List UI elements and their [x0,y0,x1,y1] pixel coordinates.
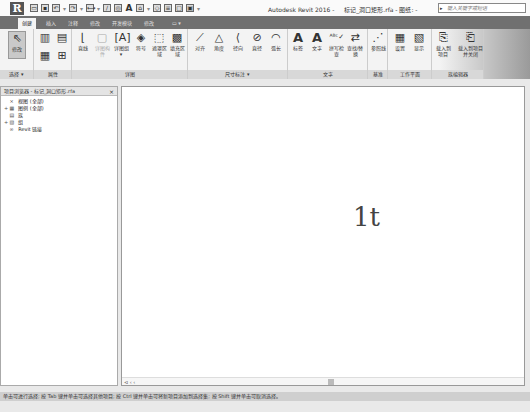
tab-insert[interactable]: 插入 [42,18,60,29]
ribbon-tab-bar: 创建 插入 注释 修改 开发模块 修改 ▭ ▾ [0,16,530,29]
show-workplane-icon: ▧ [413,31,426,44]
set-workplane-icon: ▦ [394,31,407,44]
save-icon[interactable]: ▪ [41,4,49,12]
aligned-dim-icon: ⟋ [194,31,207,44]
load-close-icon: ⎗ [464,31,477,44]
load-into-project-and-close-button[interactable]: ⎗ 载入到项目并关闭 [456,31,484,57]
find-replace-icon: ⇄ [349,31,362,44]
family-types-button[interactable]: ▥ [36,31,54,44]
panel-label[interactable]: 文字 [288,70,367,79]
legends-icon: ▦ [10,105,17,112]
reference-line-button[interactable]: ⋰ 参照线 [369,31,387,51]
expander-icon[interactable]: + [4,119,8,126]
ribbon-display-toggle[interactable]: ▭ ▾ [168,18,185,29]
family-types-icon: ▥ [39,31,52,44]
properties-button[interactable]: ▤ [53,31,71,44]
tag-icon[interactable]: ◎ [114,4,122,12]
panel-family-editor: ⎘ 载入到项目 ⎗ 载入到项目并关闭 族编辑器 [432,29,484,79]
3d-view-icon[interactable]: ⌂ [136,4,144,12]
load-into-project-button[interactable]: ⎘ 载入到项目 [434,31,452,57]
tree-node-families[interactable]: ▤ 族 [4,112,117,119]
label-button[interactable]: A 标签 [289,31,307,51]
tree-node-revit-links[interactable]: ∞ Revit 链接 [4,126,117,133]
aligned-dimension-button[interactable]: ⟋ 对齐 [191,31,209,51]
radial-dimension-button[interactable]: ⟨ 径向 [229,31,247,51]
masking-region-icon: ⬚ [153,31,166,44]
arc-length-button[interactable]: ◠ 弧长 [267,31,285,51]
family-category-button[interactable]: ⊞ [53,49,71,62]
panel-label: 属性 [34,70,71,79]
quick-access-toolbar: ▭ ▪ ↶ ▾ ↷ ▾ ⟷ ▾ / ◎ A ⌂ ▾ ◇ ≡ ▢ ▣ ▾ [30,3,200,13]
undo-icon[interactable]: ↶ [52,4,60,12]
find-replace-button[interactable]: ⇄ 查找/替换 [346,31,364,57]
type-properties-button[interactable]: ▦ [36,49,54,62]
panel-work-plane: ▦ 设置 ▧ 显示 工作平面 [388,29,432,79]
type-properties-icon: ▦ [39,49,52,62]
load-into-project-icon: ⎘ [437,31,450,44]
open-icon[interactable]: ▭ [30,4,38,12]
tree-node-legends[interactable]: + ▦ 图例 (全部) [4,105,117,112]
redo-icon[interactable]: ↷ [69,4,77,12]
tab-annotate[interactable]: 注释 [64,18,82,29]
symbol-icon: ◈ [135,31,148,44]
scrollbar-thumb[interactable] [328,379,334,385]
drawing-canvas[interactable]: 1t ⊲ ‹ ‹ [121,86,525,386]
arc-length-icon: ◠ [270,31,283,44]
family-category-icon: ⊞ [56,49,69,62]
radial-dim-icon: ⟨ [232,31,245,44]
panel-select: ⇖ 修改 选择 ▾ [0,29,34,79]
panel-dimension: ⟋ 对齐 △ 角度 ⟨ 径向 ⊘ 直径 ◠ 弧长 尺寸标注 ▾ [188,29,288,79]
expand-arrow-icon[interactable]: ▸ [440,5,443,11]
masking-region-button[interactable]: ⬚ 遮罩区域 [150,31,168,57]
angular-dim-icon: △ [213,31,226,44]
project-browser-header: 项目浏览器 - 标记_洞口矩形.rfa × [1,87,117,96]
detail-group-button[interactable]: [A] 详图组 ▾ [112,31,130,57]
thin-lines-icon[interactable]: ≡ [164,4,172,12]
section-icon[interactable]: ◇ [153,4,161,12]
tree-node-groups[interactable]: + ▧ 组 [4,119,117,126]
diameter-dimension-button[interactable]: ⊘ 直径 [248,31,266,51]
tree-node-views[interactable]: ⨯ 视图 (全部) [4,98,117,105]
status-bar: 单击可进行选择; 按 Tab 键并单击可选择其他项目; 按 Ctrl 键并单击可… [0,392,530,401]
tab-create[interactable]: 创建 [18,18,36,29]
spell-check-button[interactable]: ᴬᴮᶜ✓ 拼写检查 [327,31,345,57]
groups-icon: ▧ [10,119,17,126]
symbol-button[interactable]: ◈ 符号 [132,31,150,51]
panel-label: 详图 [72,70,187,79]
arrow-cursor-icon: ⇖ [11,32,24,45]
show-work-plane-button[interactable]: ▧ 显示 [410,31,428,51]
application-menu-button[interactable]: R [10,2,24,15]
filled-region-button[interactable]: ▩ 填充区域 [168,31,186,57]
modify-button[interactable]: ⇖ 修改 [8,31,26,59]
aligned-dimension-icon[interactable]: / [103,4,111,12]
panel-label: 族编辑器 [432,70,483,79]
angular-dimension-button[interactable]: △ 角度 [210,31,228,51]
view-control-bar[interactable]: ⊲ ‹ ‹ [122,377,524,385]
search-input[interactable] [447,4,525,12]
tab-modify-context[interactable]: 修改 [140,18,158,29]
text-icon[interactable]: A [125,4,133,12]
close-icon[interactable]: × [109,87,114,96]
infocenter-search[interactable]: ▸ [438,3,526,13]
project-browser-title: 项目浏览器 - 标记_洞口矩形.rfa [4,88,75,94]
detail-component-icon: ▢ [96,31,109,44]
families-icon: ▤ [10,112,17,119]
panel-label[interactable]: 尺寸标注 ▾ [188,70,287,79]
measure-icon[interactable]: ⟷ [86,4,94,12]
switch-windows-icon[interactable]: ▣ [186,4,194,12]
tab-add-ins[interactable]: 开发模块 [108,18,136,29]
close-hidden-windows-icon[interactable]: ▢ [175,4,183,12]
panel-label[interactable]: 选择 ▾ [0,70,33,79]
text-button[interactable]: A 文字 [308,31,326,51]
title-bar: R ▭ ▪ ↶ ▾ ↷ ▾ ⟷ ▾ / ◎ A ⌂ ▾ ◇ ≡ ▢ ▣ ▾ Au… [0,0,530,16]
detail-component-button[interactable]: ▢ 详图构件 [93,31,111,57]
reference-line-icon: ⋰ [372,31,385,44]
tab-modify[interactable]: 修改 [86,18,104,29]
expander-icon[interactable]: + [4,105,8,112]
line-icon: ⌊ [77,31,90,44]
set-work-plane-button[interactable]: ▦ 设置 [391,31,409,51]
view-controls[interactable]: ⊲ ‹ ‹ [124,378,135,386]
canvas-label-text[interactable]: 1t [353,202,380,232]
panel-datum: ⋰ 参照线 基准 [368,29,388,79]
line-button[interactable]: ⌊ 直线 [74,31,92,51]
